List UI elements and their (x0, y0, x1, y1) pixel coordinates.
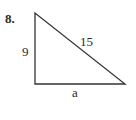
horizontal-leg-label: a (72, 86, 78, 99)
vertical-leg-label: 9 (22, 45, 29, 58)
hypotenuse-label: 15 (80, 35, 93, 48)
right-triangle (0, 0, 136, 120)
